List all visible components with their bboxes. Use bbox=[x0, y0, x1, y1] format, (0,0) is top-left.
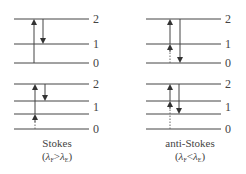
stokes-caption: Stokes (λF>λE) bbox=[22, 137, 92, 167]
subscript-e: E bbox=[198, 157, 202, 163]
level-2-label: 2 bbox=[225, 77, 231, 91]
anti-stokes-caption: anti-Stokes (λF<λE) bbox=[150, 137, 230, 167]
anti-stokes-bottom-diagram: 2 1 0 bbox=[146, 77, 231, 136]
subscript-e: E bbox=[65, 157, 69, 163]
stokes-bottom-diagram: 2 1 0 bbox=[14, 77, 99, 136]
level-2-label: 2 bbox=[93, 12, 99, 26]
level-2-label: 2 bbox=[93, 77, 99, 91]
level-1-label: 1 bbox=[225, 100, 231, 114]
level-0-label: 0 bbox=[93, 122, 99, 136]
level-1-label: 1 bbox=[225, 37, 231, 51]
anti-stokes-top-diagram: 2 1 0 bbox=[146, 12, 231, 70]
level-0-label: 0 bbox=[225, 122, 231, 136]
level-0-label: 0 bbox=[93, 56, 99, 70]
anti-stokes-condition: (λF<λE) bbox=[150, 150, 230, 167]
stokes-top-diagram: 2 1 0 bbox=[14, 12, 99, 70]
stokes-title: Stokes bbox=[22, 137, 92, 150]
level-2-label: 2 bbox=[225, 12, 231, 26]
level-1-label: 1 bbox=[93, 100, 99, 114]
stokes-condition: (λF>λE) bbox=[22, 150, 92, 167]
anti-stokes-title: anti-Stokes bbox=[150, 137, 230, 150]
level-1-label: 1 bbox=[93, 37, 99, 51]
level-0-label: 0 bbox=[225, 56, 231, 70]
